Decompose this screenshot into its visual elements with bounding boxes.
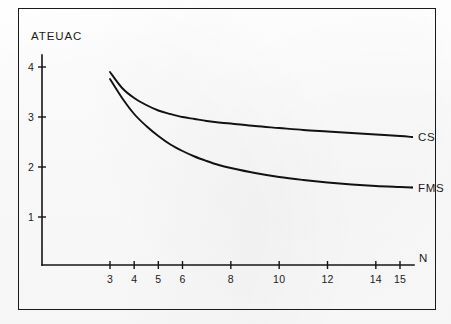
y-axis-title: ATEUAC bbox=[31, 30, 82, 42]
x-tick-label: 6 bbox=[179, 273, 185, 285]
data-curve-cs bbox=[110, 72, 412, 137]
y-tick-label: 4 bbox=[20, 61, 34, 73]
series-label-cs: CS bbox=[418, 131, 435, 143]
plot-canvas bbox=[0, 0, 451, 324]
figure-root: ATEUAC N 3456810121415 1234 CSFMS bbox=[0, 0, 451, 324]
x-tick-label: 4 bbox=[131, 273, 137, 285]
y-tick-label: 3 bbox=[20, 111, 34, 123]
x-tick-label: 10 bbox=[273, 273, 285, 285]
data-curves-group bbox=[110, 72, 412, 188]
x-tick-label: 5 bbox=[155, 273, 161, 285]
y-tick-label: 2 bbox=[20, 161, 34, 173]
x-axis-title: N bbox=[419, 252, 428, 264]
x-tick-label: 8 bbox=[228, 273, 234, 285]
axes-group bbox=[42, 55, 414, 265]
series-label-fms: FMS bbox=[418, 182, 444, 194]
x-tick-label: 15 bbox=[394, 273, 406, 285]
x-tick-label: 3 bbox=[107, 273, 113, 285]
x-tick-label: 14 bbox=[370, 273, 382, 285]
x-tick-label: 12 bbox=[321, 273, 333, 285]
y-tick-label: 1 bbox=[20, 211, 34, 223]
